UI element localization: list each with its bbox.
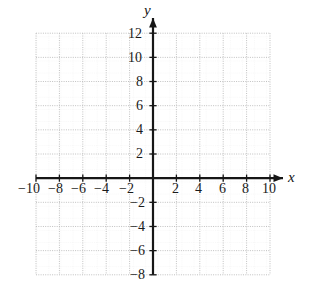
y-tick-label-2: 2 bbox=[136, 147, 143, 161]
y-tick-label-neg4: −4 bbox=[130, 220, 145, 234]
y-tick-label-neg8: −8 bbox=[130, 268, 145, 282]
x-axis-label: x bbox=[288, 170, 295, 185]
x-tick-label-neg2: −2 bbox=[119, 182, 134, 196]
y-tick-label-10: 10 bbox=[128, 51, 142, 65]
y-tick-label-8: 8 bbox=[136, 75, 143, 89]
y-tick-label-neg6: −6 bbox=[130, 244, 145, 258]
graph-canvas bbox=[0, 0, 310, 295]
x-tick-label-8: 8 bbox=[242, 182, 249, 196]
y-tick-label-12: 12 bbox=[128, 27, 142, 41]
y-tick-label-4: 4 bbox=[136, 123, 143, 137]
x-tick-label-neg4: −4 bbox=[94, 182, 109, 196]
x-tick-label-neg8: −8 bbox=[48, 182, 63, 196]
x-tick-label-2: 2 bbox=[172, 182, 179, 196]
x-tick-label-neg10: −10 bbox=[18, 182, 40, 196]
y-axis-label: y bbox=[144, 3, 151, 18]
coordinate-grid-figure: −10 −8 −6 −4 −2 2 4 6 8 10 12 10 8 6 4 2… bbox=[0, 0, 310, 295]
y-tick-label-neg2: −2 bbox=[130, 196, 145, 210]
y-tick-label-6: 6 bbox=[136, 99, 143, 113]
x-tick-label-neg6: −6 bbox=[71, 182, 86, 196]
x-tick-label-4: 4 bbox=[195, 182, 202, 196]
x-tick-label-6: 6 bbox=[219, 182, 226, 196]
x-tick-label-10: 10 bbox=[262, 182, 276, 196]
